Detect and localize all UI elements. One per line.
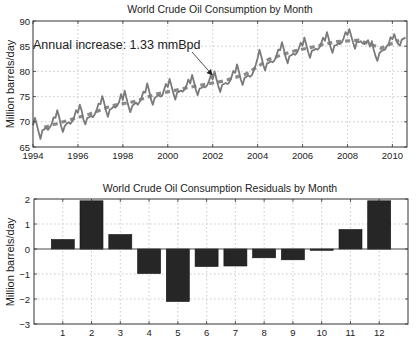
bottom-bars <box>34 201 408 302</box>
bottom-x-tick-label: 8 <box>262 327 267 338</box>
top-x-tick-label: 1998 <box>112 150 133 161</box>
residual-bar <box>166 249 189 302</box>
bottom-x-tick-label: 1 <box>60 327 65 338</box>
bottom-y-tick-label: 0 <box>25 244 30 255</box>
top-x-tick-label: 2006 <box>292 150 313 161</box>
top-y-tick-label: 65 <box>19 142 30 153</box>
bottom-x-tick-label: 10 <box>316 327 327 338</box>
annotation-text: Annual increase: 1.33 mmBpd <box>33 38 201 52</box>
bottom-y-tick-label: −3 <box>19 319 30 330</box>
top-x-tick-label: 2010 <box>382 150 403 161</box>
bottom-x-tick-label: 5 <box>175 327 180 338</box>
bottom-x-tick-label: 3 <box>118 327 123 338</box>
top-x-tick-label: 2000 <box>157 150 178 161</box>
residual-bar <box>109 235 132 250</box>
bottom-y-tick-label: −2 <box>19 294 30 305</box>
top-y-tick-label: 90 <box>19 16 30 27</box>
bottom-x-tick-label: 2 <box>89 327 94 338</box>
bottom-y-tick-label: −1 <box>19 269 30 280</box>
top-y-axis-label: Million barrels/day <box>4 39 16 128</box>
bottom-y-tick-label: 2 <box>25 194 30 205</box>
annotation-arrow <box>192 52 213 75</box>
residual-bar <box>224 249 247 266</box>
bottom-x-tick-label: 11 <box>346 327 356 338</box>
figure: World Crude Oil Consumption by Month 199… <box>0 0 419 350</box>
consumption-line-chart: World Crude Oil Consumption by Month 199… <box>4 3 407 161</box>
top-y-tick-label: 80 <box>19 66 30 77</box>
bottom-y-axis-label: Million barrels/day <box>4 217 16 306</box>
bottom-y-tick-label: 1 <box>25 219 30 230</box>
residual-bar <box>281 249 304 260</box>
bottom-x-tick-label: 7 <box>233 327 238 338</box>
top-y-tick-label: 75 <box>19 91 30 102</box>
residual-bar <box>80 201 103 249</box>
top-x-tick-label: 2004 <box>247 150 268 161</box>
residual-bar <box>138 249 161 274</box>
residual-bar <box>339 230 362 250</box>
top-y-tick-label: 70 <box>19 116 30 127</box>
bottom-chart-title: World Crude Oil Consumption Residuals by… <box>103 182 338 194</box>
residual-bar <box>253 249 276 258</box>
top-x-tick-label: 2002 <box>202 150 223 161</box>
top-x-tick-label: 1996 <box>67 150 88 161</box>
residual-bar <box>368 201 391 249</box>
top-chart-title: World Crude Oil Consumption by Month <box>127 3 313 15</box>
top-y-tick-label: 85 <box>19 41 30 52</box>
bottom-x-tick-label: 6 <box>204 327 209 338</box>
top-x-tick-label: 2008 <box>337 150 358 161</box>
bottom-x-tick-label: 9 <box>290 327 295 338</box>
residuals-bar-chart: World Crude Oil Consumption Residuals by… <box>4 182 408 338</box>
bottom-x-tick-label: 4 <box>146 327 151 338</box>
residual-bar <box>195 249 218 267</box>
trend-line <box>44 40 399 127</box>
residual-bar <box>51 240 74 250</box>
bottom-x-tick-label: 12 <box>374 327 385 338</box>
